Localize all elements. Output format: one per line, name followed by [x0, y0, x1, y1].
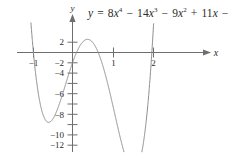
x-tick-labels: −1 1 2 [29, 58, 156, 68]
y-tick-label: −8 [54, 110, 64, 120]
y-axis-label: y [70, 3, 75, 13]
x-tick-label: −1 [29, 58, 39, 68]
plot-canvas: −1 1 2 2 −2 −4 −6 −8 −10 −12 x y [0, 0, 228, 162]
x-tick-label: 2 [151, 58, 156, 68]
y-tick-label: 2 [60, 37, 65, 47]
y-tick-label: −4 [54, 68, 64, 78]
y-tick-label: −12 [50, 140, 64, 150]
y-tick-label: −2 [54, 58, 64, 68]
y-tick-label: −10 [50, 130, 65, 140]
function-graph-figure: −1 1 2 2 −2 −4 −6 −8 −10 −12 x y y = 8x4… [0, 0, 228, 162]
x-tick-label: 1 [111, 58, 116, 68]
x-axis-label: x [213, 47, 219, 58]
